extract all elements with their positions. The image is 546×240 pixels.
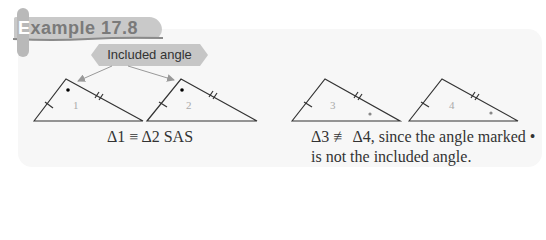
triangle-1 [34,79,143,121]
caption-left: Δ1 ≡ Δ2 SAS [107,128,193,146]
triangle-label-3: 3 [330,99,336,111]
triangle-label-1: 1 [73,99,79,111]
triangle-3 [292,79,400,121]
caption-right-line1: Δ3 ≢ Δ4, since the angle marked • [311,128,535,146]
angle-dot-1 [66,88,70,92]
angle-dot-4 [489,111,492,114]
triangle-label-2: 2 [186,99,192,111]
callout-arrows [78,66,174,81]
triangle-2 [147,79,257,121]
angle-dot-3 [368,112,371,115]
angle-dot-2 [180,88,184,92]
triangle-4 [409,79,518,121]
caption-right-line2: is not the included angle. [311,148,471,166]
triangle-label-4: 4 [449,99,455,111]
